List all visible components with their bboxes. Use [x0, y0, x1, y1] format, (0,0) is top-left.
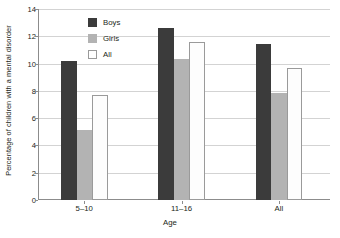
- x-tick-label: 11–16: [171, 204, 192, 213]
- y-tick-label: 2: [14, 168, 36, 177]
- x-axis-title: Age: [0, 218, 340, 227]
- y-tick-label: 0: [14, 196, 36, 205]
- legend-label: All: [103, 50, 112, 59]
- x-tick-label: All: [275, 204, 284, 213]
- bar-all-510: [92, 95, 108, 200]
- bars-layer: [38, 9, 330, 200]
- bar-girls-510: [77, 130, 93, 200]
- legend-swatch-boys: [88, 18, 97, 27]
- legend: BoysGirlsAll: [88, 14, 120, 62]
- bar-boys-All: [256, 44, 272, 200]
- y-tick-mark: [35, 200, 38, 201]
- legend-label: Girls: [103, 34, 119, 43]
- legend-swatch-all: [88, 50, 97, 59]
- legend-item-girls: Girls: [88, 30, 120, 46]
- y-axis-title-text: Percentage of children with a mental dis…: [4, 25, 13, 176]
- bar-girls-All: [271, 93, 287, 200]
- legend-swatch-girls: [88, 34, 97, 43]
- bar-all-All: [287, 68, 303, 200]
- legend-item-boys: Boys: [88, 14, 120, 30]
- bar-boys-510: [61, 61, 77, 200]
- y-tick-label: 4: [14, 141, 36, 150]
- x-tick-label: 5–10: [76, 204, 93, 213]
- legend-item-all: All: [88, 46, 120, 62]
- bar-boys-1116: [158, 28, 174, 200]
- bar-all-1116: [189, 42, 205, 200]
- bar-girls-1116: [174, 59, 190, 200]
- y-tick-label: 14: [14, 5, 36, 14]
- y-tick-label: 8: [14, 86, 36, 95]
- y-tick-label: 10: [14, 59, 36, 68]
- y-tick-label: 12: [14, 32, 36, 41]
- legend-label: Boys: [103, 18, 120, 27]
- y-tick-label: 6: [14, 114, 36, 123]
- bar-chart: Percentage of children with a mental dis…: [0, 0, 340, 238]
